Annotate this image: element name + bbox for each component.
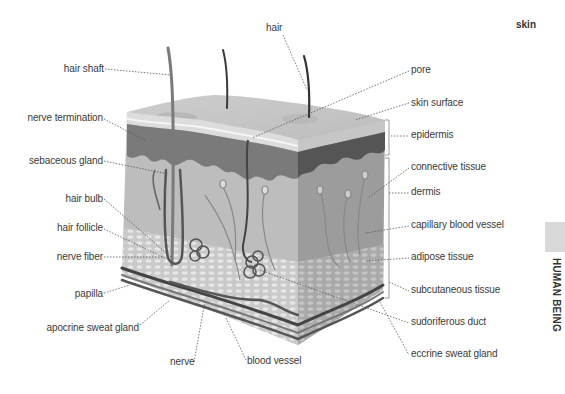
label-nerve-fiber: nerve fiber bbox=[57, 251, 103, 263]
label-sudoriferous-duct: sudoriferous duct bbox=[411, 316, 486, 328]
label-skin-surface: skin surface bbox=[411, 97, 463, 109]
dermis-bracket bbox=[385, 158, 389, 298]
label-subcutaneous-tissue: subcutaneous tissue bbox=[411, 284, 500, 296]
label-adipose-tissue: adipose tissue bbox=[411, 251, 474, 263]
label-nerve-termination: nerve termination bbox=[27, 112, 103, 124]
label-blood-vessel: blood vessel bbox=[247, 355, 301, 367]
label-pore: pore bbox=[411, 64, 431, 76]
label-capillary-blood-vessel: capillary blood vessel bbox=[411, 219, 504, 231]
section-tab-label: HUMAN BEING bbox=[545, 258, 565, 338]
label-epidermis: epidermis bbox=[411, 129, 453, 141]
label-nerve: nerve bbox=[170, 356, 195, 368]
label-apocrine-sweat-gland: apocrine sweat gland bbox=[46, 322, 139, 334]
section-tab-text: HUMAN BEING bbox=[551, 258, 562, 332]
epidermis-bracket bbox=[385, 120, 389, 155]
label-connective-tissue: connective tissue bbox=[411, 161, 486, 173]
label-hair: hair bbox=[266, 22, 282, 34]
page-title: skin bbox=[516, 19, 536, 30]
side-face bbox=[298, 120, 385, 345]
label-hair-bulb: hair bulb bbox=[66, 193, 103, 205]
layer-brackets bbox=[385, 120, 389, 298]
label-hair-follicle: hair follicle bbox=[57, 222, 103, 234]
section-tab-marker bbox=[545, 222, 565, 252]
label-sebaceous-gland: sebaceous gland bbox=[29, 155, 103, 167]
label-dermis: dermis bbox=[411, 186, 440, 198]
label-eccrine-sweat-gland: eccrine sweat gland bbox=[411, 348, 497, 360]
label-papilla: papilla bbox=[75, 288, 103, 300]
label-hair-shaft: hair shaft bbox=[64, 63, 104, 75]
